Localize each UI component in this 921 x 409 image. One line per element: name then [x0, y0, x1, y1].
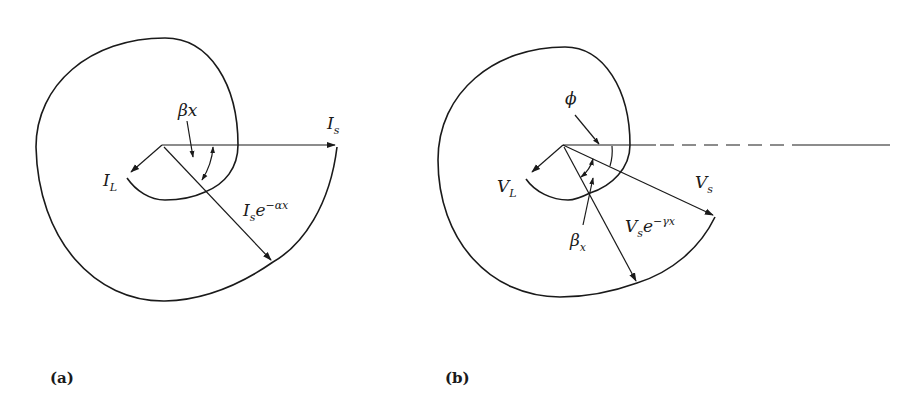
panel-a: βx Is IL Ise−αx (a) [36, 38, 340, 387]
label-phi: ϕ [565, 88, 577, 108]
label-beta-x-b: βx [569, 230, 587, 254]
label-V-s: Vs [695, 172, 713, 196]
vector-V-L [532, 145, 563, 172]
angle-beta-x-arc-b [581, 159, 593, 177]
label-beta-x: βx [177, 100, 198, 120]
current-spiral-locus [36, 38, 337, 301]
angle-beta-x-arc [202, 147, 213, 180]
vector-I-L [131, 145, 162, 172]
label-I-s-e-alpha-x: Ise−αx [242, 199, 289, 224]
angle-phi-arc [610, 146, 612, 166]
vector-V-s [563, 145, 713, 215]
label-I-L: IL [102, 170, 117, 194]
label-I-s: Is [326, 113, 340, 137]
beta-x-pointer [187, 121, 193, 157]
panel-b: ϕ Vs VL βx Vse−γx (b) [438, 47, 890, 387]
label-V-s-e-gamma-x: Vse−γx [625, 215, 676, 240]
voltage-spiral-locus [438, 47, 715, 297]
phasor-spiral-figure: βx Is IL Ise−αx (a) ϕ [0, 0, 921, 409]
caption-a: (a) [50, 369, 74, 387]
phi-pointer [575, 115, 599, 144]
label-V-L: VL [497, 176, 517, 200]
vector-V-s-decayed [564, 147, 636, 281]
caption-b: (b) [445, 369, 470, 387]
